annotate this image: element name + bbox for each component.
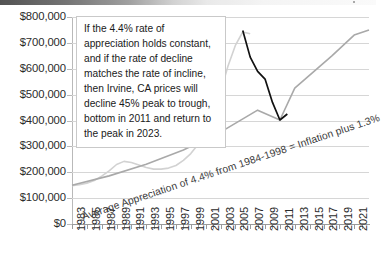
y-axis-label: $600,000 (20, 63, 66, 74)
y-axis-label: $100,000 (20, 192, 66, 203)
chrome-dot-icon (353, 1, 355, 3)
forecast-note-box: If the 4.4% rate of appreciation holds c… (76, 16, 226, 148)
chart-canvas: $0$100,000$200,000$300,000$400,000$500,0… (0, 5, 376, 271)
forecast-note-text: If the 4.4% rate of appreciation holds c… (84, 22, 219, 142)
series-line-projection (243, 30, 288, 120)
y-axis-labels: $0$100,000$200,000$300,000$400,000$500,0… (0, 5, 70, 233)
x-axis-tick (250, 225, 251, 229)
x-axis-tick (72, 225, 73, 229)
y-axis-tick (67, 198, 72, 199)
x-axis-tick (280, 225, 281, 229)
x-axis-tick (176, 225, 177, 229)
y-axis-tick (67, 224, 72, 225)
y-axis-tick (67, 121, 72, 122)
y-axis-tick (67, 69, 72, 70)
y-axis-tick (67, 172, 72, 173)
x-axis-tick (161, 225, 162, 229)
y-axis-label: $500,000 (20, 89, 66, 100)
y-axis-label: $800,000 (20, 11, 66, 22)
y-axis-label: $0 (54, 218, 66, 229)
y-axis-label: $400,000 (20, 115, 66, 126)
x-axis-tick (265, 225, 266, 229)
x-axis-tick (146, 225, 147, 229)
x-axis-tick (354, 225, 355, 229)
y-axis-tick (67, 17, 72, 18)
x-axis-tick (339, 225, 340, 229)
y-axis-label: $300,000 (20, 141, 66, 152)
y-axis-tick (67, 43, 72, 44)
y-axis-tick (67, 146, 72, 147)
y-axis-tick (67, 95, 72, 96)
y-axis-label: $200,000 (20, 167, 66, 178)
y-axis-label: $700,000 (20, 37, 66, 48)
